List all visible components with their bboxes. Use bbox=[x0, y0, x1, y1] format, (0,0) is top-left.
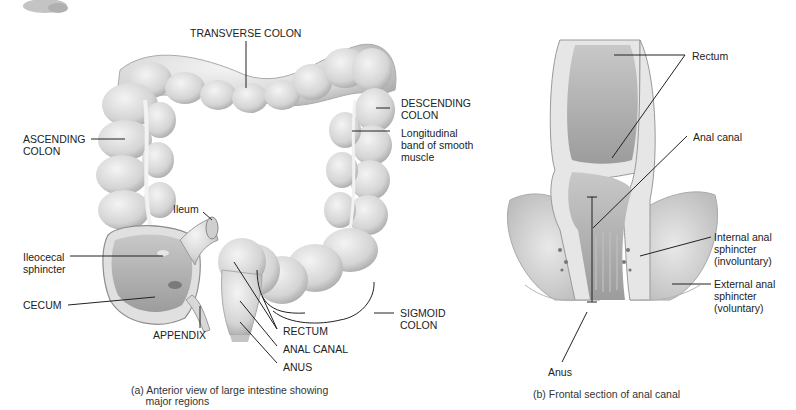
large-intestine bbox=[96, 44, 396, 342]
descending-colon-shape bbox=[324, 88, 395, 235]
rectum-shape bbox=[222, 270, 262, 342]
label-sigmoid-colon: SIGMOID COLON bbox=[400, 307, 446, 331]
label-anal-canal: ANAL CANAL bbox=[283, 343, 348, 355]
label-longitudinal-band: Longitudinal band of smooth muscle bbox=[401, 127, 473, 163]
label-rectum: RECTUM bbox=[283, 325, 328, 337]
label-anal-canal-b: Anal canal bbox=[693, 131, 742, 143]
appendix-shape bbox=[186, 295, 210, 332]
label-anus: ANUS bbox=[283, 361, 312, 373]
ascending-colon-shape bbox=[96, 83, 176, 230]
caption-panel-a: (a) Anterior view of large intestine sho… bbox=[131, 385, 328, 407]
label-ileocecal-sphincter: Ileocecal sphincter bbox=[23, 251, 66, 275]
label-internal-anal-sphincter: Internal anal sphincter (involuntary) bbox=[714, 231, 772, 267]
label-transverse-colon: TRANSVERSE COLON bbox=[190, 27, 301, 39]
label-rectum-b: Rectum bbox=[692, 50, 728, 62]
top-corner-fragment bbox=[23, 0, 68, 13]
label-cecum: CECUM bbox=[23, 299, 62, 311]
anal-canal-section bbox=[507, 40, 717, 301]
label-descending-colon: DESCENDING COLON bbox=[401, 97, 471, 121]
anatomy-illustration bbox=[0, 0, 796, 410]
label-ileum: Ileum bbox=[173, 203, 199, 215]
label-ascending-colon: ASCENDING COLON bbox=[23, 133, 85, 157]
caption-panel-b: (b) Frontal section of anal canal bbox=[533, 389, 680, 400]
label-appendix: APPENDIX bbox=[153, 329, 206, 341]
label-external-anal-sphincter: External anal sphincter (voluntary) bbox=[714, 278, 775, 314]
label-anus-b: Anus bbox=[548, 366, 572, 378]
